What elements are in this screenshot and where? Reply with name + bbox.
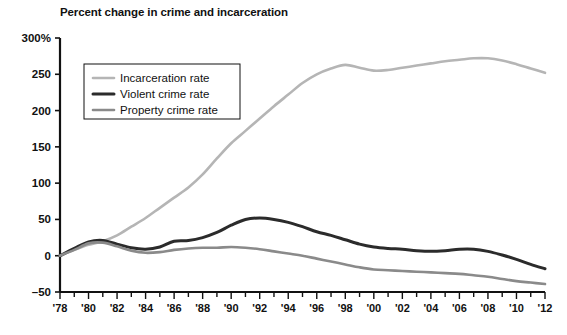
x-axis-tick-label: '78 <box>53 302 68 314</box>
x-axis-tick-label: '92 <box>252 302 267 314</box>
legend-label-2: Property crime rate <box>120 104 218 116</box>
x-axis-tick-label: '86 <box>167 302 182 314</box>
legend-label-0: Incarceration rate <box>120 72 210 84</box>
x-axis-tick-group: '78'80'82'84'86'88'90'92'94'96'98'00'02'… <box>53 292 553 314</box>
x-axis-tick-label: '00 <box>366 302 381 314</box>
legend-label-1: Violent crime rate <box>120 88 209 100</box>
x-axis-tick-label: '88 <box>195 302 210 314</box>
x-axis-tick-label: '96 <box>309 302 324 314</box>
y-axis-tick-group: 300%250200150100500–50 <box>22 32 60 298</box>
x-axis-tick-label: '04 <box>423 302 439 314</box>
chart-container: Percent change in crime and incarceratio… <box>0 0 567 335</box>
y-axis-tick-label: 250 <box>32 68 51 80</box>
y-axis-tick-label: 300% <box>22 32 51 44</box>
y-axis-tick-label: 0 <box>45 250 51 262</box>
x-axis-tick-label: '98 <box>338 302 353 314</box>
line-chart-plot: 300%250200150100500–50 '78'80'82'84'86'8… <box>0 0 567 335</box>
x-axis-tick-label: '02 <box>395 302 410 314</box>
y-axis-tick-label: 200 <box>32 105 51 117</box>
x-axis-tick-label: '80 <box>81 302 96 314</box>
chart-legend: Incarceration rateViolent crime rateProp… <box>84 64 240 119</box>
x-axis-tick-label: '94 <box>281 302 297 314</box>
x-axis-tick-label: '82 <box>110 302 125 314</box>
x-axis-tick-label: '84 <box>138 302 154 314</box>
y-axis-tick-label: –50 <box>32 286 51 298</box>
y-axis-tick-label: 50 <box>38 213 51 225</box>
x-axis-tick-label: '08 <box>481 302 496 314</box>
x-axis-tick-label: '10 <box>509 302 524 314</box>
x-axis-tick-label: '06 <box>452 302 467 314</box>
y-axis-tick-label: 150 <box>32 141 51 153</box>
y-axis-tick-label: 100 <box>32 177 51 189</box>
x-axis-tick-label: '12 <box>538 302 553 314</box>
x-axis-tick-label: '90 <box>224 302 239 314</box>
